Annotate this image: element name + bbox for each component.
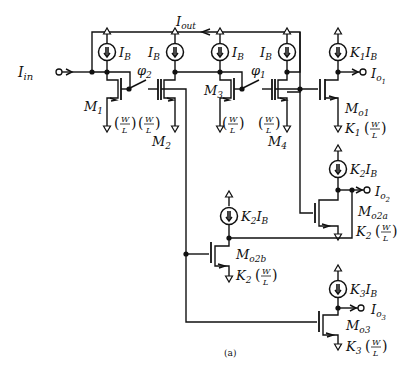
- m2-label: M2: [151, 134, 171, 151]
- svg-text:): ): [275, 115, 280, 131]
- phi2-label: φ2: [137, 63, 152, 80]
- mo2b-ratio: K2 ( W L ): [235, 267, 277, 287]
- transistor-mo2a: [315, 190, 342, 240]
- svg-text:K3: K3: [345, 339, 362, 356]
- svg-text:L: L: [372, 349, 378, 358]
- svg-text:L: L: [145, 126, 151, 135]
- svg-text:(: (: [255, 267, 260, 283]
- mo3-label: Mo3: [345, 318, 371, 335]
- svg-text:L: L: [121, 126, 127, 135]
- current-source-k3ib: [330, 265, 347, 311]
- svg-text:W: W: [371, 120, 380, 129]
- figure-caption: (a): [224, 348, 236, 358]
- svg-text:W: W: [145, 115, 154, 124]
- m3-wl-ratio: ( W L ): [222, 115, 244, 135]
- io2-label: Io2: [374, 184, 391, 204]
- svg-text:): ): [272, 267, 277, 283]
- transistor-mo2b: [211, 238, 233, 282]
- current-source-k2ib-b: [221, 191, 238, 241]
- mo2a-label: Mo2a: [357, 204, 388, 221]
- svg-text:K2: K2: [235, 268, 252, 285]
- current-source-ib-4: [279, 28, 296, 75]
- svg-text:): ): [131, 115, 136, 131]
- svg-text:L: L: [229, 126, 235, 135]
- phi1-label: φ1: [251, 63, 266, 80]
- transistor-m2: [158, 72, 186, 254]
- mo3-ratio: K3 ( W L ): [345, 338, 387, 358]
- ib-label-2: IB: [147, 45, 160, 62]
- k1ib-label: K1IB: [349, 45, 378, 62]
- svg-text:W: W: [372, 338, 381, 347]
- io1-terminal[interactable]: [338, 69, 366, 75]
- k2ib-label-a: K2IB: [349, 162, 378, 179]
- mo1-label: Mo1: [344, 101, 369, 118]
- svg-text:): ): [239, 115, 244, 131]
- switch-phi1[interactable]: [243, 80, 272, 89]
- mo2a-ratio: K2 ( W L ): [355, 223, 397, 243]
- switch-phi2[interactable]: [130, 80, 158, 89]
- svg-text:L: L: [382, 234, 388, 243]
- iout-label: Iout: [175, 14, 196, 31]
- k2ib-label-b: K2IB: [240, 209, 269, 226]
- io3-label: Io3: [370, 302, 387, 322]
- current-source-ib-2: [167, 28, 184, 75]
- svg-text:): ): [381, 120, 386, 136]
- io3-terminal[interactable]: [338, 305, 364, 311]
- current-source-ib-3: [212, 28, 229, 75]
- iin-label: Iin: [17, 64, 33, 82]
- svg-text:): ): [155, 115, 160, 131]
- svg-text:(: (: [365, 338, 370, 354]
- transistor-mo3: [319, 308, 342, 350]
- svg-text:): ): [392, 223, 397, 239]
- m4-wl-ratio: ( W L ): [258, 115, 280, 135]
- transistor-mo1: [320, 72, 342, 132]
- circuit-diagram: Iout Iin IB M1 ( W L ) φ2: [0, 0, 420, 379]
- io2-terminal[interactable]: [338, 187, 370, 193]
- ib-label-1: IB: [118, 45, 131, 62]
- m2-wl-ratio: ( W L ): [138, 115, 160, 135]
- svg-text:L: L: [262, 278, 268, 287]
- m1-label: M1: [83, 99, 103, 116]
- current-source-ib-1: [99, 28, 116, 75]
- svg-text:(: (: [138, 115, 143, 131]
- m4-label: M4: [267, 134, 287, 151]
- svg-text:): ): [382, 338, 387, 354]
- svg-text:W: W: [262, 267, 271, 276]
- ib-label-4: IB: [259, 45, 272, 62]
- ib-label-3: IB: [231, 45, 244, 62]
- svg-text:L: L: [371, 131, 377, 140]
- m3-label: M3: [203, 83, 223, 100]
- svg-text:K1: K1: [344, 121, 360, 138]
- k3ib-label: K3IB: [349, 282, 378, 299]
- svg-text:(: (: [375, 223, 380, 239]
- svg-text:W: W: [265, 115, 274, 124]
- m1-wl-ratio: ( W L ): [114, 115, 136, 135]
- svg-text:(: (: [222, 115, 227, 131]
- svg-text:W: W: [121, 115, 130, 124]
- svg-text:(: (: [364, 120, 369, 136]
- io1-label: Io1: [370, 66, 386, 86]
- mo2b-label: Mo2b: [235, 247, 266, 264]
- current-source-k2ib-a: [330, 145, 347, 193]
- svg-text:(: (: [114, 115, 119, 131]
- iin-terminal[interactable]: [56, 69, 92, 75]
- mo1-ratio: K1 ( W L ): [344, 120, 386, 140]
- svg-text:K2: K2: [355, 224, 372, 241]
- svg-text:W: W: [229, 115, 238, 124]
- svg-text:W: W: [382, 223, 391, 232]
- current-source-k1ib: [330, 28, 347, 75]
- svg-text:(: (: [258, 115, 263, 131]
